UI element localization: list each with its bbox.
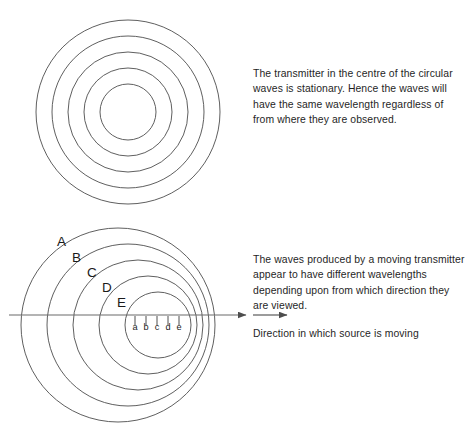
tick-label-d: d	[165, 322, 170, 332]
stationary-wavefront-group	[36, 20, 220, 204]
moving-wavefront-B	[47, 244, 209, 406]
moving-transmitter-caption: The waves produced by a moving transmitt…	[253, 252, 467, 314]
tick-label-a: a	[132, 322, 138, 332]
wavefront-label-D: D	[102, 280, 112, 295]
tick-label-b: b	[143, 322, 148, 332]
wavefront-label-B: B	[72, 250, 81, 265]
stationary-transmitter-caption: The transmitter in the centre of the cir…	[253, 66, 463, 128]
stationary-wavefront-4	[52, 36, 204, 188]
tick-label-c: c	[155, 322, 160, 332]
figure-canvas: ABCDE abcde The transmitter in the centr…	[0, 0, 475, 431]
moving-wavefront-A	[21, 228, 215, 422]
stationary-wavefront-1	[100, 84, 156, 140]
moving-wavefront-group	[21, 228, 215, 422]
wavefront-label-E: E	[117, 295, 126, 310]
stationary-wavefront-2	[84, 68, 172, 156]
stationary-wavefront-5	[36, 20, 220, 204]
tick-label-e: e	[176, 322, 181, 332]
stationary-wavefront-3	[68, 52, 188, 172]
direction-of-motion-caption: Direction in which source is moving	[253, 326, 463, 341]
doppler-figure: ABCDE abcde	[0, 0, 475, 431]
wavefront-label-A: A	[57, 234, 66, 249]
wavefront-label-C: C	[87, 265, 97, 280]
tick-label-group: abcde	[132, 322, 181, 332]
